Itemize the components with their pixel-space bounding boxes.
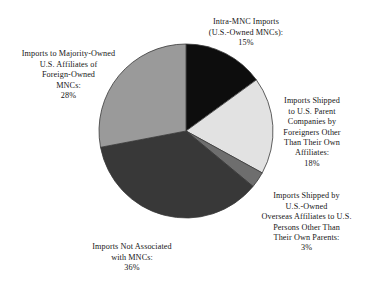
- pie-label-value: 15%: [182, 38, 310, 48]
- pie-label-value: 36%: [52, 263, 212, 273]
- pie-label-value: 28%: [2, 91, 135, 101]
- pie-label-imports-not-associated-with-mncs: Imports Not Associated with MNCs: 36%: [52, 232, 212, 283]
- pie-label-text: Imports to Majority-Owned U.S. Affiliate…: [22, 49, 115, 89]
- pie-label-text: Imports Shipped to U.S. Parent Companies…: [283, 96, 340, 157]
- pie-label-text: Imports Shipped by U.S.-Owned Overseas A…: [261, 191, 351, 242]
- pie-label-imports-to-us-parent-companies: Imports Shipped to U.S. Parent Companies…: [262, 86, 362, 180]
- pie-label-text: Imports Not Associated with MNCs:: [92, 242, 172, 261]
- pie-chart: Intra-MNC Imports (U.S.-Owned MNCs): 15%…: [0, 0, 371, 283]
- pie-label-intra-mnc-imports: Intra-MNC Imports (U.S.-Owned MNCs): 15%: [182, 7, 310, 59]
- pie-label-value: 3%: [243, 243, 370, 253]
- pie-label-imports-to-majority-owned-us-affiliates: Imports to Majority-Owned U.S. Affiliate…: [2, 39, 135, 112]
- pie-label-value: 18%: [262, 159, 362, 169]
- pie-label-text: Intra-MNC Imports (U.S.-Owned MNCs):: [209, 17, 283, 36]
- pie-label-imports-by-us-owned-overseas-affiliates: Imports Shipped by U.S.-Owned Overseas A…: [243, 181, 370, 264]
